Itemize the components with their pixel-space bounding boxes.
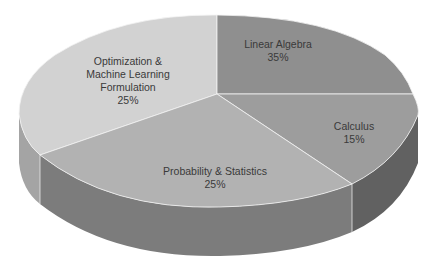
label-probability-statistics: Probability & Statistics 25% <box>163 165 267 191</box>
label-calculus: Calculus 15% <box>334 120 374 146</box>
label-linear-algebra: Linear Algebra 35% <box>244 38 312 64</box>
label-optimization-ml: Optimization & Machine Learning Formulat… <box>86 55 169 107</box>
